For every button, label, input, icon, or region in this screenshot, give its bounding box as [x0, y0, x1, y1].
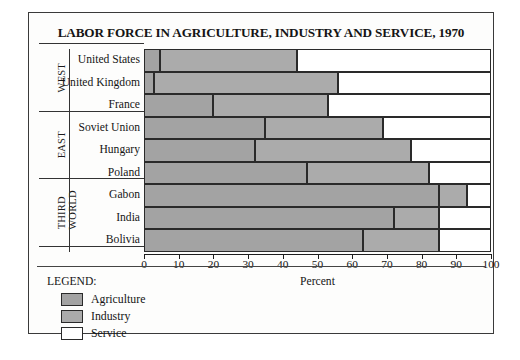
bar-segment-agriculture	[144, 139, 255, 162]
bar-segment-industry	[394, 207, 439, 230]
group-label-line: EAST	[56, 128, 67, 162]
bar-row	[144, 207, 491, 230]
bar-segment-industry	[160, 49, 297, 72]
chart-legend: LEGEND: AgricultureIndustryService	[47, 275, 227, 342]
category-label: United States	[78, 49, 140, 72]
x-axis-tick-label: 90	[451, 258, 462, 270]
plot-area: WESTEASTTHIRDWORLD United StatesUnited K…	[33, 43, 491, 273]
legend-items: AgricultureIndustryService	[47, 291, 227, 342]
bar-segment-service	[467, 184, 491, 207]
axis-and-bars: 0102030405060708090100 Percent	[144, 49, 491, 254]
x-axis-tick-label: 20	[208, 258, 219, 270]
bar-row	[144, 229, 491, 252]
bar-row	[144, 117, 491, 140]
bar-row	[144, 184, 491, 207]
group-separator	[39, 43, 144, 44]
legend-label: Agriculture	[91, 292, 145, 307]
bar-row	[144, 94, 491, 117]
legend-item: Service	[61, 325, 227, 342]
bar-row	[144, 72, 491, 95]
bar-segment-agriculture	[144, 184, 439, 207]
legend-title: LEGEND:	[47, 275, 227, 288]
group-name-divider	[69, 49, 70, 252]
category-label: Gabon	[109, 184, 140, 207]
x-axis-tick-label: 100	[482, 258, 499, 270]
bar-segment-service	[429, 162, 491, 185]
x-axis-tick-label: 40	[277, 258, 288, 270]
bar-segment-service	[328, 94, 491, 117]
bar-segment-agriculture	[144, 49, 160, 72]
group-label-line: THIRD	[56, 196, 67, 230]
chart-figure: LABOR FORCE IN AGRICULTURE, INDUSTRY AND…	[28, 12, 494, 334]
bar-segment-industry	[255, 139, 411, 162]
bar-segment-industry	[439, 184, 467, 207]
group-separator	[39, 178, 144, 179]
legend-item: Agriculture	[61, 291, 227, 308]
bar-segment-industry	[213, 94, 328, 117]
bar-segment-agriculture	[144, 229, 363, 252]
legend-label: Service	[91, 326, 126, 341]
category-label: Hungary	[99, 139, 140, 162]
bar-segment-industry	[265, 117, 383, 140]
bar-segment-agriculture	[144, 117, 265, 140]
bar-segment-industry	[307, 162, 428, 185]
x-axis-tick-label: 0	[141, 258, 147, 270]
x-axis-tick-label: 70	[381, 258, 392, 270]
category-label: Poland	[108, 162, 140, 185]
bar-segment-industry	[154, 72, 338, 95]
legend-swatch-service	[61, 327, 83, 340]
bar-segment-service	[338, 72, 491, 95]
category-label: United Kingdom	[62, 72, 140, 95]
bar-segment-service	[411, 139, 491, 162]
bar-series-container	[144, 49, 491, 254]
legend-swatch-industry	[61, 310, 83, 323]
bar-row	[144, 162, 491, 185]
category-label: Soviet Union	[78, 117, 140, 140]
category-label-column: United StatesUnited KingdomFranceSoviet …	[69, 49, 144, 254]
bar-row	[144, 49, 491, 72]
x-axis-tick-label: 50	[312, 258, 323, 270]
legend-label: Industry	[91, 309, 130, 324]
bar-segment-industry	[363, 229, 439, 252]
x-axis-tick-label: 80	[416, 258, 427, 270]
bar-segment-agriculture	[144, 207, 394, 230]
legend-item: Industry	[61, 308, 227, 325]
bar-segment-agriculture	[144, 72, 154, 95]
bar-segment-agriculture	[144, 94, 213, 117]
legend-swatch-agriculture	[61, 293, 83, 306]
bar-segment-service	[439, 207, 491, 230]
group-separator	[39, 111, 144, 112]
x-axis-tick-label: 60	[346, 258, 357, 270]
x-axis-tick-label: 10	[173, 258, 184, 270]
bar-segment-service	[297, 49, 491, 72]
bar-segment-service	[383, 117, 491, 140]
bar-segment-service	[439, 229, 491, 252]
category-label: Bolivia	[106, 229, 140, 252]
bar-segment-agriculture	[144, 162, 307, 185]
x-axis-tick-label: 30	[242, 258, 253, 270]
legend-divider	[37, 266, 485, 267]
group-separator	[39, 246, 144, 247]
category-label: India	[116, 207, 140, 230]
category-label: France	[108, 94, 140, 117]
bar-row	[144, 139, 491, 162]
chart-title: LABOR FORCE IN AGRICULTURE, INDUSTRY AND…	[29, 25, 493, 41]
